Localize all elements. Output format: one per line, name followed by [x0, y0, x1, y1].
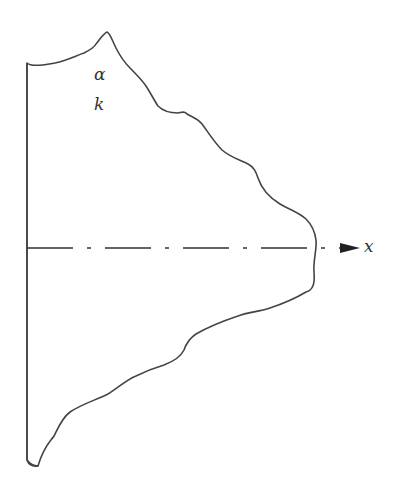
diagram-canvas — [0, 0, 399, 490]
alpha-label: α — [94, 66, 105, 83]
axis-x-label: x — [364, 238, 374, 255]
k-label: k — [94, 96, 104, 113]
bottom-corner — [27, 458, 38, 466]
axis-arrowhead-icon — [340, 243, 360, 253]
body-outline — [27, 32, 316, 466]
